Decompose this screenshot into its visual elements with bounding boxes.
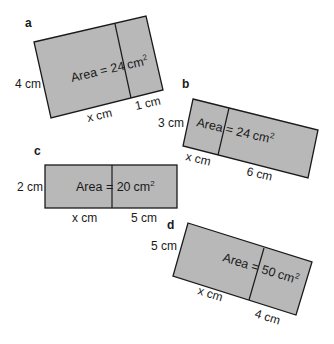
figure-d-letter: d <box>167 218 174 232</box>
figure-d-side-label: 5 cm <box>151 239 177 253</box>
figure-c: c Area = 20cm2 2 cm x cm 5 cm <box>17 144 177 225</box>
figure-c-bottom-right-label: 5 cm <box>131 211 157 225</box>
figure-c-letter: c <box>34 144 41 158</box>
figure-d: d Area = 50cm2 5 cm x cm 4 cm <box>151 218 312 327</box>
figure-a-letter: a <box>25 16 32 30</box>
figure-b: b Area = 24cm2 3 cm x cm 6 cm <box>158 77 318 184</box>
figure-a: a Area = 24cm2 4 cm x cm 1 cm <box>15 16 163 125</box>
figure-b-side-label: 3 cm <box>158 116 184 130</box>
figure-a-side-label: 4 cm <box>15 77 41 91</box>
area-diagrams: a Area = 24cm2 4 cm x cm 1 cm b Area = 2… <box>0 0 334 344</box>
figure-c-bottom-left-label: x cm <box>72 211 97 225</box>
figure-b-letter: b <box>182 77 189 91</box>
figure-c-side-label: 2 cm <box>17 180 43 194</box>
figure-c-area-label: Area = 20cm2 <box>76 179 155 194</box>
